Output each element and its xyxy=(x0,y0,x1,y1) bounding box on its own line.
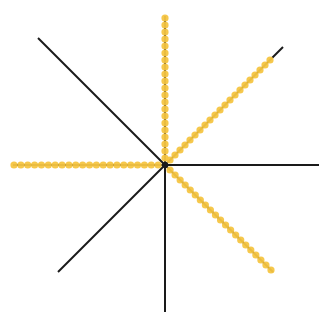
ray-left-dots xyxy=(10,161,161,168)
ray-up-dots xyxy=(161,14,168,161)
ray-down-left-line xyxy=(58,165,165,272)
ray-up-right-dots xyxy=(166,56,273,163)
ray-up-left-line xyxy=(38,38,165,165)
center-point xyxy=(162,162,168,168)
ray-down-right-dots xyxy=(166,166,274,273)
radial-diagram xyxy=(0,0,336,327)
